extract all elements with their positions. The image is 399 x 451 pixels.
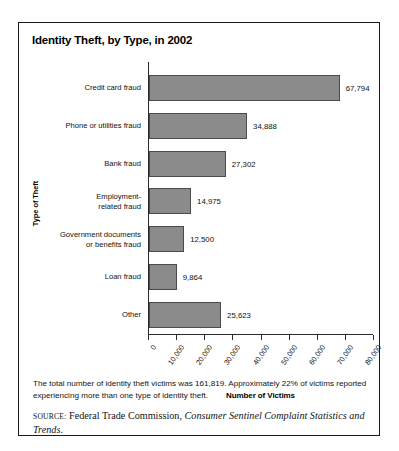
bar	[149, 151, 226, 177]
category-label: Government documents or benefits fraud	[60, 230, 141, 249]
figure-title: Identity Theft, by Type, in 2002	[32, 34, 192, 46]
x-axis-tick	[204, 335, 205, 340]
bar-value-label: 9,864	[177, 273, 203, 282]
bar-row: Loan fraud9,864	[148, 258, 373, 296]
bar	[149, 75, 340, 101]
source-label: Source:	[33, 412, 66, 421]
bar-row: Other25,623	[148, 296, 373, 334]
bar-value-label: 27,302	[226, 159, 256, 168]
x-axis-tick	[345, 335, 346, 340]
y-axis-title: Type of Theft	[31, 164, 40, 244]
x-axis-tick-label: 70,000	[335, 343, 355, 367]
chart-area: Type of Theft Credit card fraud67,794Pho…	[19, 59, 379, 365]
figure-source: Source: Federal Trade Commission, Consum…	[33, 410, 367, 436]
bar-row: Employment- related fraud14,975	[148, 183, 373, 221]
x-axis-tick-label: 10,000	[166, 343, 186, 367]
x-axis-tick	[373, 335, 374, 340]
x-axis-tick	[176, 335, 177, 340]
category-label: Other	[122, 310, 141, 319]
bar	[149, 113, 247, 139]
bar-value-label: 25,623	[221, 311, 251, 320]
x-axis-tick	[261, 335, 262, 340]
source-period: .	[60, 424, 63, 435]
bar-row: Bank fraud27,302	[148, 145, 373, 183]
x-axis-tick	[289, 335, 290, 340]
bar-row: Government documents or benefits fraud12…	[148, 220, 373, 258]
source-text: Federal Trade Commission,	[69, 410, 182, 421]
figure-note: The total number of identity theft victi…	[33, 378, 367, 401]
category-label: Phone or utilities fraud	[65, 121, 141, 130]
x-axis-tick-label: 60,000	[307, 343, 327, 367]
x-axis-tick-label: 30,000	[222, 343, 242, 367]
bar-value-label: 12,500	[184, 235, 214, 244]
figure-frame: Identity Theft, by Type, in 2002 Type of…	[18, 22, 380, 436]
category-label: Credit card fraud	[84, 83, 141, 92]
bar-value-label: 34,888	[247, 121, 277, 130]
x-axis-tick-label: 0	[149, 343, 159, 352]
x-axis-tick-label: 80,000	[363, 343, 383, 367]
bar-value-label: 14,975	[191, 197, 221, 206]
x-axis-tick	[317, 335, 318, 340]
bar	[149, 264, 177, 290]
footnote-block: The total number of identity theft victi…	[33, 378, 367, 436]
category-label: Loan fraud	[105, 273, 141, 282]
x-axis-tick	[232, 335, 233, 340]
category-label: Bank fraud	[104, 159, 141, 168]
x-axis-tick	[148, 335, 149, 340]
bar	[149, 302, 221, 328]
category-label: Employment- related fraud	[96, 192, 141, 211]
bar-row: Credit card fraud67,794	[148, 69, 373, 107]
bar	[149, 226, 184, 252]
x-axis-tick-label: 20,000	[194, 343, 214, 367]
bar	[149, 188, 191, 214]
plot-area: Credit card fraud67,794Phone or utilitie…	[148, 69, 373, 334]
x-axis-tick-label: 50,000	[279, 343, 299, 367]
bar-row: Phone or utilities fraud34,888	[148, 107, 373, 145]
bar-value-label: 67,794	[340, 83, 370, 92]
x-axis-tick-label: 40,000	[251, 343, 271, 367]
